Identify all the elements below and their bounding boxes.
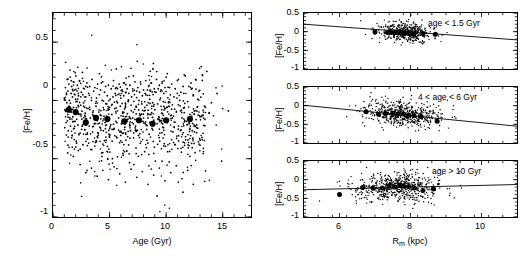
- left-xtick-2: 10: [160, 221, 170, 231]
- left-ylabel: [Fe/H]: [22, 108, 32, 133]
- left-xtick-3: 15: [217, 221, 227, 231]
- r0-ytick-1: 0: [273, 26, 299, 36]
- left-ytick-3: -1: [18, 206, 48, 216]
- panel-feh-rm-mid-plotarea: [304, 87, 517, 143]
- left-ytick-1: 0: [22, 80, 48, 90]
- r1-ytick-3: -1: [269, 136, 299, 146]
- r2-xtick-1: 8: [407, 221, 412, 231]
- r2-ytick-0: 0.5: [273, 155, 299, 165]
- panel-feh-rm-young-plotarea: [304, 13, 517, 69]
- figure-root: [Fe/H] Age (Gyr) 0.5 0 -0.5 -1 0 5 10 15…: [0, 0, 527, 266]
- panel-note-old: age > 10 Gyr: [432, 166, 481, 176]
- panel-feh-rm-old-plotarea: [304, 161, 517, 217]
- scatter-age-feh: [53, 13, 251, 217]
- r2-xtick-2: 10: [475, 221, 485, 231]
- right-xlabel-unit: (kpc): [405, 236, 428, 246]
- scatter-feh-rm-young: [304, 13, 517, 69]
- r1-ytick-1: 0: [273, 100, 299, 110]
- left-xlabel: Age (Gyr): [102, 236, 202, 246]
- r2-ytick-2: -0.5: [269, 193, 299, 203]
- r1-ytick-0: 0.5: [273, 81, 299, 91]
- panel-feh-rm-mid: [303, 86, 518, 144]
- panel-note-mid: 4 < age < 6 Gyr: [418, 92, 477, 102]
- panel-age-vs-feh-plotarea: [53, 13, 251, 217]
- r0-ytick-3: -1: [269, 62, 299, 72]
- r2-ytick-1: 0: [273, 174, 299, 184]
- r1-ytick-2: -0.5: [269, 119, 299, 129]
- panel-note-young: age < 1.5 Gyr: [428, 18, 480, 28]
- scatter-feh-rm-old: [304, 161, 517, 217]
- right-xlabel: Rm (kpc): [360, 236, 460, 247]
- left-ytick-2: -0.5: [18, 139, 48, 149]
- left-xtick-0: 0: [49, 221, 54, 231]
- r2-xtick-0: 6: [336, 221, 341, 231]
- r2-ytick-3: -1: [269, 210, 299, 220]
- panel-feh-rm-old: [303, 160, 518, 218]
- scatter-feh-rm-mid: [304, 87, 517, 143]
- left-xtick-1: 5: [105, 221, 110, 231]
- r0-ytick-0: 0.5: [273, 7, 299, 17]
- panel-feh-rm-young: [303, 12, 518, 70]
- r0-ytick-2: -0.5: [269, 45, 299, 55]
- left-ytick-0: 0.5: [22, 32, 48, 42]
- panel-age-vs-feh: [52, 12, 252, 218]
